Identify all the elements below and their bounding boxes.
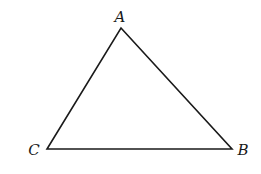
triangle-diagram: A B C [0, 0, 261, 174]
vertex-label-a: A [113, 8, 126, 26]
triangle-abc [47, 28, 232, 149]
vertex-label-c: C [28, 141, 40, 159]
vertex-label-b: B [236, 141, 248, 159]
